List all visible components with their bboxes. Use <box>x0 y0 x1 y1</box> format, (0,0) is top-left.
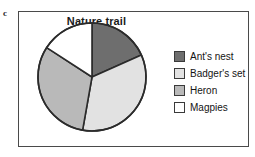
pie-chart <box>33 18 151 136</box>
legend-swatch-magpies <box>174 102 185 113</box>
figure-page: c Nature trail Ant's nest Badger's set H… <box>0 0 255 157</box>
legend-swatch-heron <box>174 85 185 96</box>
legend-label-heron: Heron <box>190 85 217 96</box>
legend-item[interactable]: Badger's set <box>174 65 254 81</box>
figure-letter-label: c <box>3 8 7 18</box>
legend-item[interactable]: Ant's nest <box>174 48 254 64</box>
legend-swatch-badgers-set <box>174 68 185 79</box>
pie-chart-svg <box>33 18 151 136</box>
chart-panel: Nature trail Ant's nest Badger's set Her… <box>18 11 249 147</box>
legend-item[interactable]: Magpies <box>174 99 254 115</box>
legend-label-badgers-set: Badger's set <box>190 68 245 79</box>
legend-swatch-ants-nest <box>174 51 185 62</box>
legend-label-magpies: Magpies <box>190 102 228 113</box>
legend-label-ants-nest: Ant's nest <box>190 51 234 62</box>
chart-legend: Ant's nest Badger's set Heron Magpies <box>174 48 254 116</box>
legend-item[interactable]: Heron <box>174 82 254 98</box>
